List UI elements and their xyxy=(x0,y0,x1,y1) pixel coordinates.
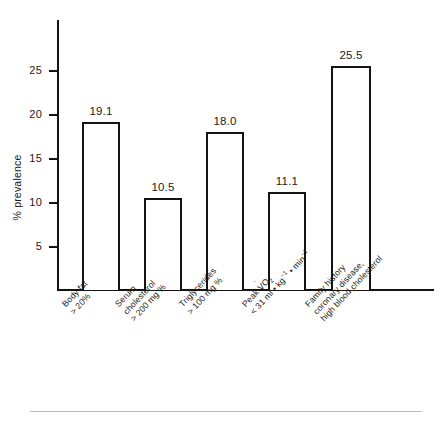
y-tick-label-20: 20 xyxy=(29,109,42,120)
y-tick-label-15: 15 xyxy=(29,153,42,164)
plot-area: % prevalence 25 20 15 10 5 19.1 10.5 18.… xyxy=(0,0,448,427)
y-tick-15 xyxy=(49,158,58,160)
y-tick-label-5: 5 xyxy=(36,241,42,252)
footer-divider xyxy=(30,411,422,412)
bar-chart-figure: % prevalence 25 20 15 10 5 19.1 10.5 18.… xyxy=(0,0,448,427)
bar-value-family-history: 25.5 xyxy=(321,49,381,61)
y-axis-title: % prevalence xyxy=(12,138,23,238)
y-tick-label-10: 10 xyxy=(29,197,42,208)
bar-value-triglycerides: 18.0 xyxy=(195,115,255,127)
y-tick-20 xyxy=(49,114,58,116)
y-tick-5 xyxy=(49,246,58,248)
y-axis-line xyxy=(57,20,59,291)
y-tick-label-25: 25 xyxy=(29,65,42,76)
bar-body-fat xyxy=(82,122,120,290)
bar-value-body-fat: 19.1 xyxy=(71,105,131,117)
bar-value-serum-cholesterol: 10.5 xyxy=(133,181,193,193)
bar-value-peak-vo2: 11.1 xyxy=(257,175,317,187)
y-tick-25 xyxy=(49,70,58,72)
y-tick-10 xyxy=(49,202,58,204)
